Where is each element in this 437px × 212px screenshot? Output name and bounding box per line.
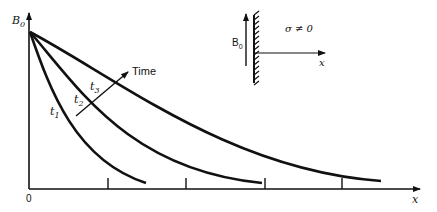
curve-label-t1: t1 <box>50 105 60 120</box>
time-arrow-label: Time <box>132 65 156 77</box>
diffusion-diagram: Time t3 t2 t1 B0 0 x B0 x <box>0 0 437 212</box>
inset-x-label: x <box>319 57 325 68</box>
y-axis-label: B0 <box>11 14 25 29</box>
origin-label: 0 <box>26 193 32 204</box>
curve-t2 <box>30 32 262 183</box>
inset-diagram: B0 x σ ≠ 0 <box>232 11 325 85</box>
curve-label-t2: t2 <box>74 93 84 108</box>
x-axis-ticks <box>108 178 342 189</box>
inset-field-label: B0 <box>232 37 243 50</box>
curve-label-t3: t3 <box>90 80 100 95</box>
conductivity-label: σ ≠ 0 <box>285 23 314 34</box>
x-axis-label: x <box>412 193 419 206</box>
